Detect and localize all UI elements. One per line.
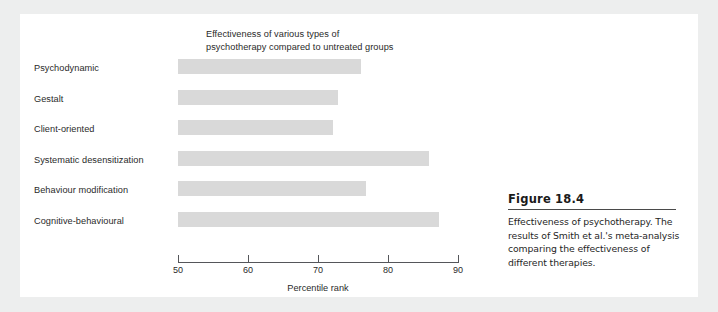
figure-18-4: Effectiveness of various types of psycho… — [0, 0, 718, 312]
bar — [178, 181, 366, 196]
axis-tick — [178, 255, 179, 263]
figure-panel: Effectiveness of various types of psycho… — [20, 14, 698, 297]
bar-row: Behaviour modification — [20, 181, 480, 203]
bar-category-label: Psychodynamic — [34, 63, 184, 73]
caption-divider — [508, 209, 676, 210]
axis-tick — [318, 255, 319, 263]
bar — [178, 212, 439, 227]
axis-tick-label: 80 — [383, 265, 393, 275]
caption-text: Effectiveness of psychotherapy. The resu… — [508, 215, 688, 269]
bar — [178, 151, 429, 166]
bar — [178, 59, 361, 74]
bar — [178, 90, 338, 105]
axis-label: Percentile rank — [178, 283, 458, 293]
axis-tick-label: 50 — [173, 265, 183, 275]
axis-tick — [458, 255, 459, 263]
chart-area: Effectiveness of various types of psycho… — [20, 14, 520, 297]
x-axis: 5060708090 Percentile rank — [178, 254, 463, 294]
axis-tick — [248, 255, 249, 263]
axis-tick-label: 70 — [313, 265, 323, 275]
bar-category-label: Cognitive-behavioural — [34, 216, 184, 226]
bar-row: Cognitive-behavioural — [20, 212, 480, 234]
bar-category-label: Gestalt — [34, 94, 184, 104]
bar-category-label: Systematic desensitization — [34, 155, 184, 165]
bar-row: Gestalt — [20, 90, 480, 112]
bar-row: Psychodynamic — [20, 59, 480, 81]
bar-row: Systematic desensitization — [20, 151, 480, 173]
bar — [178, 120, 333, 135]
axis-tick-label: 90 — [453, 265, 463, 275]
bar-category-label: Behaviour modification — [34, 185, 184, 195]
bar-row: Client-oriented — [20, 120, 480, 142]
figure-caption: Figure 18.4 Effectiveness of psychothera… — [508, 192, 688, 269]
axis-tick — [388, 255, 389, 263]
bar-category-label: Client-oriented — [34, 124, 184, 134]
axis-tick-label: 60 — [243, 265, 253, 275]
caption-title: Figure 18.4 — [508, 192, 688, 209]
